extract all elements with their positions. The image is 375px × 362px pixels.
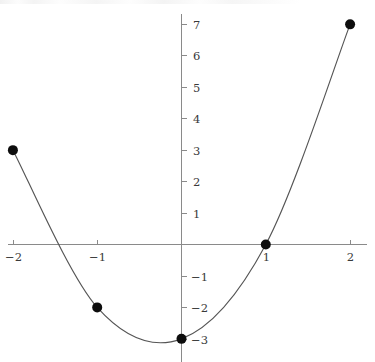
data-point-marker bbox=[8, 145, 18, 155]
x-tick-label-1: 1 bbox=[263, 250, 270, 264]
y-tick-label--1: −1 bbox=[191, 270, 208, 284]
chart-figure: −2 −1 1 2 7 6 5 4 3 2 1 −1 bbox=[0, 0, 375, 362]
y-tick-label--3: −3 bbox=[191, 333, 208, 347]
y-tick-label-7: 7 bbox=[193, 18, 200, 32]
y-tick-labels: 7 6 5 4 3 2 1 −1 −2 −3 bbox=[191, 18, 208, 347]
y-tick-label-5: 5 bbox=[193, 81, 200, 95]
y-tick-label-2: 2 bbox=[193, 175, 200, 189]
y-tick-label-3: 3 bbox=[193, 144, 200, 158]
y-tick-label-1: 1 bbox=[193, 207, 200, 221]
data-point-marker bbox=[345, 19, 355, 29]
y-tick-label--2: −2 bbox=[191, 301, 208, 315]
x-tick-labels: −2 −1 1 2 bbox=[5, 250, 354, 264]
y-tick-marks bbox=[182, 25, 187, 340]
y-tick-label-6: 6 bbox=[193, 49, 200, 63]
data-point-marker bbox=[177, 334, 187, 344]
data-point-marker bbox=[261, 240, 271, 250]
axes-group bbox=[8, 14, 367, 362]
x-tick-label--2: −2 bbox=[5, 250, 22, 264]
y-tick-label-4: 4 bbox=[193, 112, 200, 126]
x-tick-label-2: 2 bbox=[347, 250, 354, 264]
data-point-marker bbox=[92, 302, 102, 312]
line-chart-plot: −2 −1 1 2 7 6 5 4 3 2 1 −1 bbox=[0, 0, 375, 362]
x-tick-label--1: −1 bbox=[89, 250, 106, 264]
